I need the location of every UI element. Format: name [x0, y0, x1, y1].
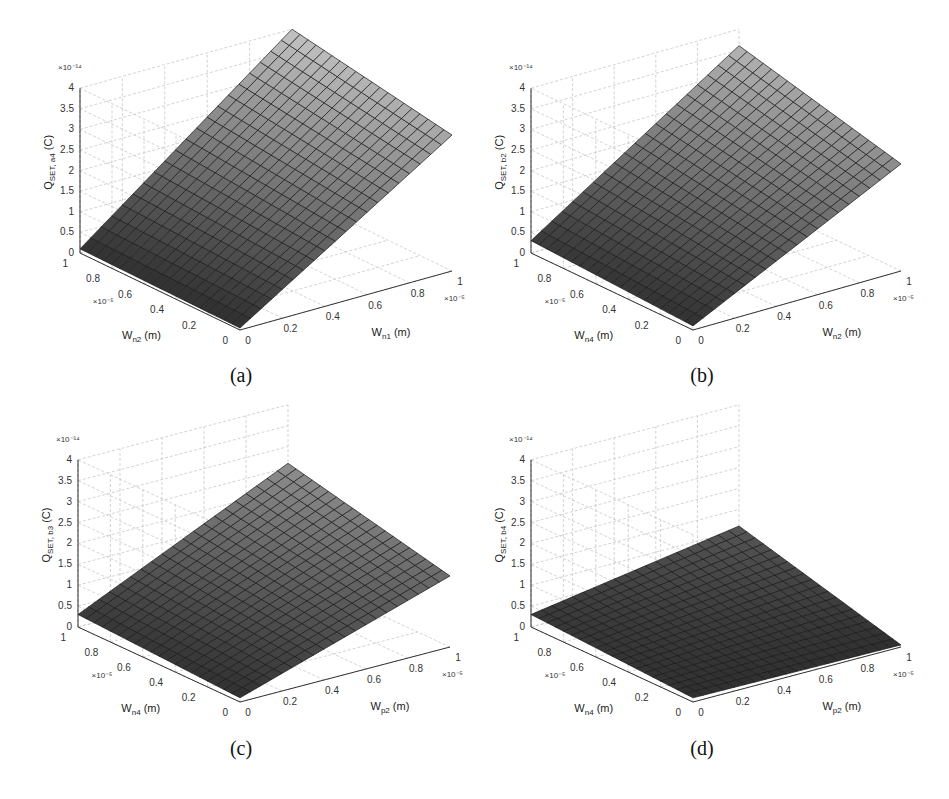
svg-text:0.8: 0.8	[84, 647, 98, 658]
z-axis-label: QSET, b2 (C)	[493, 135, 508, 190]
y-axis-label: Wn4 (m)	[121, 702, 160, 717]
svg-text:1: 1	[513, 258, 519, 269]
svg-text:1.5: 1.5	[511, 185, 525, 196]
surface-mesh	[80, 29, 452, 328]
svg-text:0.2: 0.2	[635, 320, 649, 331]
subplot-b: 00.511.522.533.5400.20.40.60.8100.20.40.…	[475, 0, 949, 399]
y-multiplier: ×10⁻⁵	[545, 671, 566, 680]
z-multiplier: ×10⁻¹⁴	[58, 63, 82, 72]
svg-text:0.6: 0.6	[819, 674, 833, 685]
svg-text:0: 0	[245, 335, 251, 346]
svg-text:0.4: 0.4	[150, 304, 164, 315]
svg-text:3: 3	[68, 123, 74, 134]
caption-a: (a)	[230, 364, 252, 387]
y-axis-label: Wn4 (m)	[574, 702, 613, 717]
svg-text:1: 1	[519, 579, 525, 590]
svg-text:0: 0	[222, 335, 228, 346]
svg-text:0: 0	[519, 247, 525, 258]
svg-text:3.5: 3.5	[511, 475, 525, 486]
svg-text:0.8: 0.8	[860, 288, 874, 299]
y-multiplier: ×10⁻⁵	[545, 297, 566, 306]
x-axis-label: Wp2 (m)	[371, 700, 410, 715]
svg-text:0.8: 0.8	[409, 663, 423, 674]
svg-text:3.5: 3.5	[58, 475, 72, 486]
svg-text:1: 1	[906, 276, 912, 287]
svg-text:1: 1	[68, 206, 74, 217]
svg-text:0.2: 0.2	[283, 696, 297, 707]
svg-text:3: 3	[519, 496, 525, 507]
surface-mesh	[531, 526, 901, 698]
caption-c: (c)	[230, 737, 252, 760]
z-axis-label: QSET, a4 (C)	[42, 135, 57, 190]
svg-text:0.6: 0.6	[570, 289, 584, 300]
svg-text:0: 0	[698, 335, 704, 346]
svg-text:2: 2	[519, 537, 525, 548]
svg-text:0: 0	[66, 621, 72, 632]
z-axis-label: QSET, b4 (C)	[493, 508, 508, 563]
svg-text:0.8: 0.8	[537, 273, 551, 284]
surface-mesh	[531, 46, 901, 326]
subplot-d: 00.511.522.533.5400.20.40.60.8100.20.40.…	[475, 400, 949, 799]
svg-text:0.6: 0.6	[570, 662, 584, 673]
surface-plot-b: 00.511.522.533.5400.20.40.60.8100.20.40.…	[475, 0, 949, 399]
svg-text:0.6: 0.6	[367, 674, 381, 685]
svg-text:0.8: 0.8	[86, 273, 100, 284]
svg-text:0: 0	[68, 247, 74, 258]
svg-text:2.5: 2.5	[58, 517, 72, 528]
caption-d: (d)	[690, 737, 713, 760]
z-multiplier: ×10⁻¹⁴	[509, 435, 533, 444]
svg-text:1: 1	[66, 579, 72, 590]
surface-mesh	[78, 463, 450, 698]
caption-b: (b)	[690, 364, 713, 387]
svg-text:3: 3	[519, 123, 525, 134]
svg-text:1.5: 1.5	[511, 558, 525, 569]
svg-text:1: 1	[906, 652, 912, 663]
svg-text:4: 4	[68, 82, 74, 93]
svg-text:0: 0	[245, 707, 251, 718]
x-multiplier: ×10⁻⁵	[893, 670, 914, 679]
y-multiplier: ×10⁻⁵	[92, 671, 113, 680]
svg-text:0.6: 0.6	[819, 300, 833, 311]
svg-text:3.5: 3.5	[511, 103, 525, 114]
svg-text:0: 0	[675, 335, 681, 346]
svg-text:0.6: 0.6	[368, 300, 382, 311]
svg-text:0: 0	[519, 621, 525, 632]
svg-text:0.8: 0.8	[860, 663, 874, 674]
surface-plot-a: 00.511.522.533.5400.20.40.60.8100.20.40.…	[0, 0, 474, 399]
svg-text:0.2: 0.2	[182, 320, 196, 331]
svg-text:0.4: 0.4	[326, 311, 340, 322]
svg-text:0.4: 0.4	[602, 304, 616, 315]
svg-text:0.5: 0.5	[511, 226, 525, 237]
y-axis-label: Wn4 (m)	[574, 329, 613, 344]
x-multiplier: ×10⁻⁵	[444, 294, 465, 303]
x-multiplier: ×10⁻⁵	[442, 670, 463, 679]
svg-text:0: 0	[222, 707, 228, 718]
svg-text:0.5: 0.5	[511, 600, 525, 611]
svg-text:1: 1	[513, 632, 519, 643]
svg-text:0.4: 0.4	[602, 677, 616, 688]
z-multiplier: ×10⁻¹⁴	[509, 63, 533, 72]
z-multiplier: ×10⁻¹⁴	[56, 435, 80, 444]
svg-text:1: 1	[455, 652, 461, 663]
svg-text:0.5: 0.5	[58, 600, 72, 611]
svg-text:3.5: 3.5	[60, 103, 74, 114]
svg-text:0: 0	[698, 707, 704, 718]
svg-text:2.5: 2.5	[511, 517, 525, 528]
svg-text:0.4: 0.4	[325, 685, 339, 696]
subplot-a: 00.511.522.533.5400.20.40.60.8100.20.40.…	[0, 0, 474, 399]
svg-text:0: 0	[675, 707, 681, 718]
x-axis-label: Wn2 (m)	[822, 326, 861, 341]
svg-text:0.2: 0.2	[283, 323, 297, 334]
svg-text:1: 1	[457, 276, 463, 287]
svg-text:0.8: 0.8	[411, 288, 425, 299]
subplot-c: 00.511.522.533.5400.20.40.60.8100.20.40.…	[0, 400, 474, 799]
svg-text:3: 3	[66, 496, 72, 507]
x-axis-label: Wp2 (m)	[822, 700, 861, 715]
svg-text:0.2: 0.2	[736, 696, 750, 707]
svg-text:0.2: 0.2	[182, 692, 196, 703]
svg-text:1: 1	[62, 258, 68, 269]
svg-text:0.4: 0.4	[777, 685, 791, 696]
svg-text:1: 1	[519, 206, 525, 217]
svg-text:4: 4	[519, 82, 525, 93]
svg-text:1: 1	[60, 632, 66, 643]
